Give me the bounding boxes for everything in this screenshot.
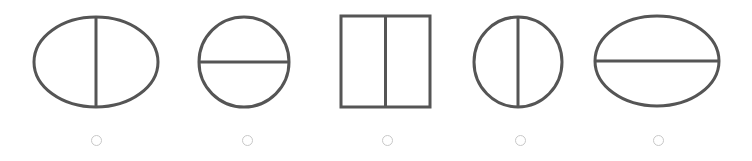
option-2-figure (199, 17, 289, 107)
option-4-radio[interactable] (515, 135, 526, 146)
option-3-figure (341, 16, 430, 107)
option-1-figure (34, 17, 158, 107)
option-5-figure (595, 16, 719, 106)
option-3-radio[interactable] (382, 135, 393, 146)
option-1-radio[interactable] (91, 135, 102, 146)
option-2-radio[interactable] (242, 135, 253, 146)
shape-options-diagram (0, 0, 752, 161)
option-4-figure (474, 17, 562, 107)
option-5-radio[interactable] (653, 135, 664, 146)
